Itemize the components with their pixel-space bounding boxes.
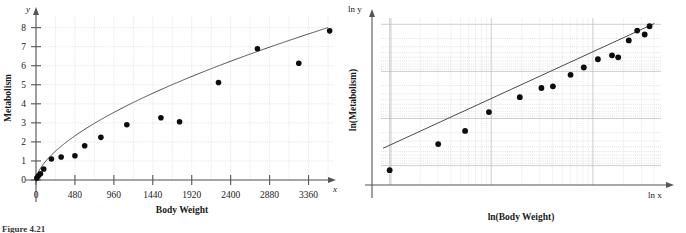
- right-chart-data-points: [387, 23, 653, 173]
- data-point: [296, 60, 302, 66]
- right-chart-axes: [365, 9, 674, 198]
- data-point: [255, 46, 261, 52]
- data-point: [216, 80, 222, 86]
- left-y-ticklabel: 7: [21, 42, 26, 52]
- data-point: [158, 115, 164, 121]
- data-point: [38, 171, 44, 177]
- left-x-ticklabel: 2880: [260, 190, 279, 200]
- left-y-ticklabel: 2: [21, 137, 26, 147]
- left-y-ticklabel: 3: [21, 118, 26, 128]
- data-point: [642, 32, 648, 38]
- left-x-ticklabel: 960: [107, 190, 122, 200]
- left-x-ticklabel: 480: [68, 190, 83, 200]
- right-chart-y-title: ln(Metabolism): [348, 69, 359, 131]
- left-chart-axes: [26, 7, 336, 202]
- left-x-ticklabel: 0: [34, 190, 39, 200]
- figure-caption: Figure 4.21: [2, 224, 45, 233]
- data-point: [486, 109, 492, 115]
- left-y-ticklabel: 5: [21, 80, 26, 90]
- data-point: [634, 28, 640, 34]
- data-point: [517, 94, 523, 100]
- data-point: [72, 153, 78, 159]
- data-point: [581, 65, 587, 71]
- data-point: [626, 38, 632, 44]
- right-chart-svg: ln y ln x ln(Body Weight) ln(Metabolism): [343, 0, 686, 233]
- chart-panel-log-log: ln y ln x ln(Body Weight) ln(Metabolism): [343, 0, 686, 233]
- left-chart-svg: 012345678 048096014401920240028803360 y …: [0, 0, 343, 233]
- left-y-ticklabel: 1: [21, 156, 26, 166]
- left-y-ticklabel: 0: [21, 175, 26, 185]
- data-point: [58, 154, 64, 160]
- left-x-ticklabel: 1920: [182, 190, 201, 200]
- data-point: [539, 85, 545, 91]
- left-chart-x-title: Body Weight: [156, 205, 209, 215]
- right-chart-x-variable: ln x: [648, 190, 662, 200]
- data-point: [124, 122, 130, 128]
- figure-container: 012345678 048096014401920240028803360 y …: [0, 0, 686, 233]
- left-chart-data-points: [34, 28, 332, 181]
- data-point: [609, 52, 615, 58]
- data-point: [41, 166, 47, 172]
- left-y-ticklabel: 8: [21, 23, 26, 33]
- data-point: [550, 83, 556, 89]
- data-point: [98, 135, 104, 141]
- data-point: [435, 141, 441, 147]
- left-chart-y-title: Metabolism: [3, 74, 13, 122]
- left-chart-y-ticklabels: 012345678: [21, 23, 26, 185]
- left-chart-x-variable: x: [332, 184, 337, 194]
- data-point: [568, 72, 574, 78]
- right-chart-y-variable: ln y: [348, 4, 362, 14]
- data-point: [615, 54, 621, 60]
- right-chart-gridlines: [381, 18, 661, 185]
- data-point: [49, 156, 55, 162]
- right-chart-x-title: ln(Body Weight): [488, 212, 555, 223]
- data-point: [82, 143, 88, 149]
- data-point: [177, 119, 183, 125]
- left-y-ticklabel: 6: [21, 61, 26, 71]
- left-x-ticklabel: 2400: [221, 190, 240, 200]
- left-chart-y-variable: y: [25, 4, 30, 14]
- power-fit-curve: [36, 26, 332, 177]
- data-point: [595, 56, 601, 62]
- data-point: [327, 28, 333, 34]
- data-point: [462, 128, 468, 134]
- data-point: [387, 167, 393, 173]
- left-x-ticklabel: 1440: [143, 190, 162, 200]
- left-y-ticklabel: 4: [21, 99, 26, 109]
- left-chart-x-ticklabels: 048096014401920240028803360: [34, 190, 319, 200]
- linear-fit-line: [383, 23, 654, 148]
- chart-panel-body-weight-vs-metabolism: 012345678 048096014401920240028803360 y …: [0, 0, 343, 233]
- data-point: [647, 23, 653, 29]
- left-x-ticklabel: 3360: [299, 190, 318, 200]
